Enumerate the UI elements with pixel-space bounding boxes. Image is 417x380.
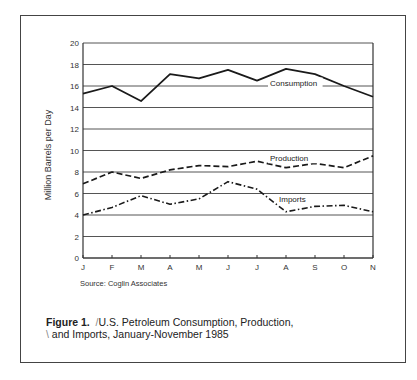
y-tick-label: 14 — [70, 104, 79, 113]
series-imports-line — [83, 182, 373, 215]
y-tick-label: 4 — [75, 211, 80, 220]
series-consumption-line — [83, 69, 373, 101]
y-tick-label: 8 — [75, 168, 80, 177]
x-tick-label: A — [167, 263, 173, 272]
series-label-imports: Imports — [279, 195, 306, 204]
x-tick-label: M — [196, 263, 203, 272]
y-tick-label: 16 — [70, 82, 79, 91]
x-tick-label: J — [81, 263, 85, 272]
x-tick-label: M — [138, 263, 145, 272]
caption-line-2: and Imports, January-November 1985 — [52, 328, 229, 340]
y-tick-label: 2 — [75, 233, 80, 242]
series-label-production: Production — [270, 154, 308, 163]
x-tick-label: F — [110, 263, 115, 272]
x-tick-label: A — [283, 263, 289, 272]
x-tick-label: J — [255, 263, 259, 272]
y-axis-label: Million Barrels per Day — [43, 95, 53, 215]
y-tick-label: 12 — [70, 125, 79, 134]
y-tick-label: 6 — [75, 190, 80, 199]
x-tick-label: S — [312, 263, 317, 272]
x-tick-label: J — [226, 263, 230, 272]
figure-caption: Figure 1. /U.S. Petroleum Consumption, P… — [46, 316, 293, 340]
y-tick-label: 18 — [70, 61, 79, 70]
caption-line-1: U.S. Petroleum Consumption, Production, — [99, 316, 294, 328]
series-label-consumption: Consumption — [270, 79, 317, 88]
source-note: Source: Coglin Associates — [80, 279, 167, 288]
y-tick-label: 10 — [70, 147, 79, 156]
y-tick-label: 20 — [70, 39, 79, 48]
x-tick-label: N — [370, 263, 376, 272]
figure-number: Figure 1. — [46, 316, 90, 328]
x-tick-label: O — [341, 263, 347, 272]
y-tick-label: 0 — [75, 254, 80, 263]
series-production-line — [83, 156, 373, 184]
